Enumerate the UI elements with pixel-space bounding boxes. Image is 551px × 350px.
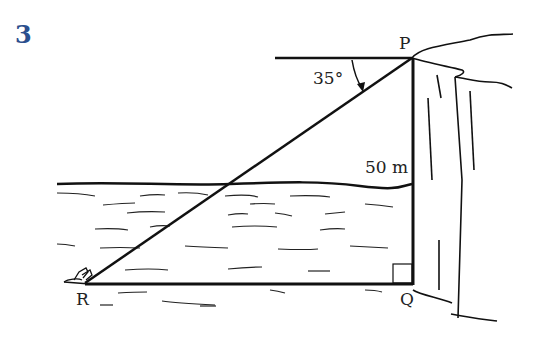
label-P: P: [399, 33, 410, 53]
angle-label: 35°: [313, 68, 343, 88]
sea-surface: [57, 182, 412, 188]
height-label: 50 m: [365, 157, 408, 177]
cliff: [412, 34, 513, 321]
label-Q: Q: [400, 289, 414, 309]
water-ripples: [57, 193, 393, 306]
trigonometry-diagram: P Q R 35° 50 m: [0, 0, 551, 350]
label-R: R: [76, 289, 90, 309]
right-angle-marker: [393, 264, 412, 283]
